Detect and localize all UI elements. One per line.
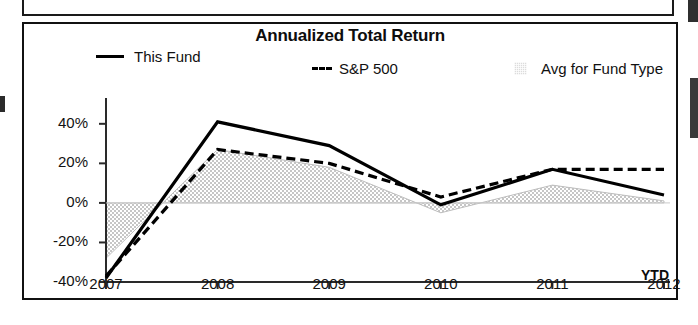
y-axis-tick-label: 20% [32,153,88,170]
x-axis-tick-labels: YTD 200720082009201020112012 [24,267,680,295]
avg-fund-type-area [106,150,664,259]
y-axis-tick-label: 40% [32,114,88,131]
sp-500-line [106,150,664,277]
x-axis-tick-label: 2010 [424,275,457,292]
plot-area: 40%20%0%-20%-40% YTD 2007200820092010201… [24,24,680,302]
x-axis-tick-label: 2008 [201,275,234,292]
scan-artifact-right-mark-top [688,0,698,22]
x-axis-tick-label: 2011 [536,275,568,292]
y-axis-tick-labels: 40%20%0%-20%-40% [32,24,88,302]
scan-artifact-right-mark-side [690,78,698,138]
y-axis-tick-label: 0% [32,193,88,210]
x-axis-tick-label: 2012 [647,275,680,292]
y-axis-tick-label: -20% [32,232,88,249]
x-axis-tick-label: 2009 [313,275,346,292]
scan-artifact-left-mark [0,96,5,112]
annualized-total-return-chart-panel: Annualized Total Return This Fund S&P 50… [22,22,678,300]
chart-plot-svg [24,24,680,302]
x-axis-tick-label: 2007 [89,275,122,292]
scan-artifact-top-box [22,0,674,16]
